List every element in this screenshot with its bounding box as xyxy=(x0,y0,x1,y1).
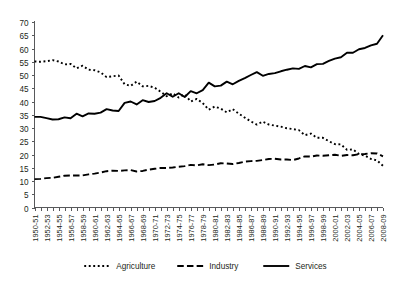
x-axis-tick-label: 1982-83 xyxy=(223,215,232,242)
series-group xyxy=(35,35,384,179)
chart-legend: AgricultureIndustryServices xyxy=(84,262,326,271)
x-axis-tick-label: 1992-93 xyxy=(283,215,292,242)
y-axis-tick-label: 65 xyxy=(19,32,29,41)
y-axis-tick-label: 50 xyxy=(19,72,29,81)
x-axis-tick-label: 1980-81 xyxy=(211,215,220,242)
x-axis-tick-label: 1952-53 xyxy=(43,215,52,242)
x-axis-tick-label: 1984-85 xyxy=(235,215,244,242)
series-line-services xyxy=(35,35,384,119)
y-axis-tick-label: 45 xyxy=(19,85,29,94)
x-axis-tick-label: 1978-79 xyxy=(199,215,208,242)
x-axis-tick-label: 1962-63 xyxy=(103,215,112,242)
x-axis-tick-label: 1954-55 xyxy=(55,215,64,242)
legend-label-services: Services xyxy=(295,262,326,271)
legend-label-industry: Industry xyxy=(209,262,239,271)
x-axis-tick-label: 1950-51 xyxy=(31,215,40,242)
y-axis-tick-label: 10 xyxy=(19,178,29,187)
x-axis-tick-label: 1976-77 xyxy=(187,215,196,242)
x-axis-tick-label: 1966-67 xyxy=(127,215,136,242)
y-axis-tick-label: 35 xyxy=(19,112,29,121)
chart-container: 0510152025303540455055606570 1950-511952… xyxy=(0,0,417,284)
y-axis-tick-label: 15 xyxy=(19,165,29,174)
x-axis-tick-label: 2004-05 xyxy=(355,215,364,242)
y-axis-tick-label: 40 xyxy=(19,99,29,108)
x-axis-tick-label: 1968-69 xyxy=(139,215,148,242)
x-axis-tick-label: 1986-87 xyxy=(247,215,256,242)
x-axis-tick-label: 1970-71 xyxy=(151,215,160,242)
series-line-industry xyxy=(35,153,384,179)
line-chart: 0510152025303540455055606570 1950-511952… xyxy=(0,0,417,284)
x-axis-tick-label: 1990-91 xyxy=(271,215,280,242)
x-axis-tick-label: 1974-75 xyxy=(175,215,184,242)
y-axis-tick-label: 0 xyxy=(24,205,29,214)
y-axis-tick-label: 70 xyxy=(19,19,29,28)
x-axis-tick-label: 1996-97 xyxy=(307,215,316,242)
x-axis-tick-label: 1958-59 xyxy=(79,215,88,242)
x-axis-tick-label: 2006-07 xyxy=(367,215,376,242)
x-axis-tick-label: 2002-03 xyxy=(343,215,352,242)
x-axis-tick-label: 1998-99 xyxy=(319,215,328,242)
x-axis-tick-label: 1960-61 xyxy=(91,215,100,242)
y-axis-labels: 0510152025303540455055606570 xyxy=(19,19,29,214)
x-axis-tick-label: 1994-95 xyxy=(295,215,304,242)
x-axis-tick-label: 1972-73 xyxy=(163,215,172,242)
legend-label-agriculture: Agriculture xyxy=(116,262,156,271)
x-axis-tick-label: 2000-01 xyxy=(331,215,340,242)
x-axis-tick-label: 1964-65 xyxy=(115,215,124,242)
y-axis-tick-label: 25 xyxy=(19,138,29,147)
y-axis-tick-label: 5 xyxy=(24,191,29,200)
x-axis-tick-label: 1988-89 xyxy=(259,215,268,242)
x-axis-tick-label: 1956-57 xyxy=(67,215,76,242)
y-axis-tick-label: 55 xyxy=(19,59,29,68)
y-axis-tick-label: 20 xyxy=(19,152,29,161)
x-axis-tick-label: 2008-09 xyxy=(379,215,388,242)
y-axis-tick-label: 30 xyxy=(19,125,29,134)
y-axis-tick-label: 60 xyxy=(19,46,29,55)
x-axis-labels: 1950-511952-531954-551956-571958-591960-… xyxy=(31,215,389,242)
series-line-agriculture xyxy=(35,60,384,166)
